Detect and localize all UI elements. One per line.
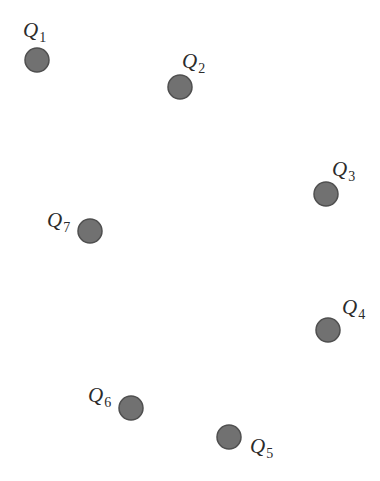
node-q2 <box>168 75 192 99</box>
node-label-letter: Q <box>23 18 38 42</box>
node-label-subscript: 1 <box>39 30 46 45</box>
label-layer: Q1Q2Q3Q4Q5Q6Q7 <box>23 18 365 461</box>
node-q3 <box>314 182 338 206</box>
node-label-letter: Q <box>250 434 265 458</box>
node-label-subscript: 3 <box>348 169 355 184</box>
node-label-q4: Q4 <box>342 295 365 322</box>
node-q1 <box>25 48 49 72</box>
node-q5 <box>217 425 241 449</box>
node-q7 <box>78 219 102 243</box>
node-label-subscript: 2 <box>198 61 205 76</box>
node-layer <box>25 48 340 449</box>
node-label-q5: Q5 <box>250 434 273 461</box>
node-q6 <box>119 396 143 420</box>
node-q4 <box>316 318 340 342</box>
node-label-letter: Q <box>342 295 357 319</box>
node-label-subscript: 5 <box>266 446 273 461</box>
node-label-letter: Q <box>88 383 103 407</box>
node-label-letter: Q <box>47 208 62 232</box>
node-label-letter: Q <box>182 49 197 73</box>
node-label-letter: Q <box>332 157 347 181</box>
node-label-q3: Q3 <box>332 157 355 184</box>
node-label-q2: Q2 <box>182 49 205 76</box>
node-label-q6: Q6 <box>88 383 111 410</box>
node-label-q7: Q7 <box>47 208 70 235</box>
node-label-subscript: 4 <box>358 307 365 322</box>
node-label-subscript: 6 <box>104 395 111 410</box>
node-label-q1: Q1 <box>23 18 46 45</box>
diagram-canvas: Q1Q2Q3Q4Q5Q6Q7 <box>0 0 380 481</box>
node-label-subscript: 7 <box>63 220 70 235</box>
